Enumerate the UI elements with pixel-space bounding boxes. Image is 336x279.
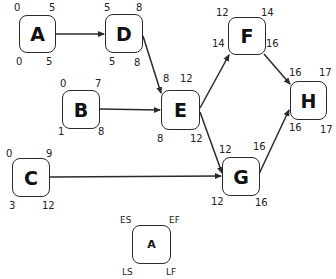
node-c-label: C: [24, 167, 38, 189]
node-d-ef: 8: [136, 3, 142, 13]
legend-es: ES: [120, 215, 131, 225]
legend-ls: LS: [122, 267, 133, 277]
node-g-ls: 12: [211, 197, 224, 207]
node-g-label: G: [233, 166, 249, 188]
legend-node: A: [132, 225, 171, 264]
node-g-lf: 16: [255, 198, 268, 208]
node-g-ef: 16: [253, 142, 266, 152]
edge-f-h: [264, 54, 290, 84]
edge-d-e: [143, 36, 161, 93]
node-e-lf: 12: [190, 134, 203, 144]
node-b-ls: 1: [58, 127, 64, 137]
node-a-lf: 5: [46, 57, 52, 67]
node-h-es: 16: [289, 68, 302, 78]
node-c-lf: 12: [42, 201, 55, 211]
node-c-ef: 9: [46, 149, 52, 159]
node-a-ef: 5: [49, 3, 55, 13]
node-h-lf: 17: [320, 125, 333, 135]
node-b-es: 0: [60, 79, 66, 89]
node-d-label: D: [116, 23, 132, 45]
node-f: F: [228, 17, 266, 55]
node-h-label: H: [301, 90, 317, 112]
node-b-lf: 8: [98, 127, 104, 137]
network-diagram: A 0 5 0 5 D 5 8 5 8 B 0 7 1 8 E 8 12 8 1…: [0, 0, 336, 279]
node-a: A: [19, 15, 56, 53]
node-e: E: [161, 90, 200, 130]
node-d-es: 5: [104, 3, 110, 13]
edge-c-g: [50, 176, 221, 177]
node-e-label: E: [174, 99, 187, 121]
node-a-es: 0: [14, 3, 20, 13]
node-f-ls: 14: [212, 39, 225, 49]
node-h-ef: 17: [319, 68, 332, 78]
node-e-es: 8: [163, 74, 169, 84]
node-d-lf: 8: [134, 58, 140, 68]
legend-lf: LF: [166, 267, 176, 277]
edge-e-f: [200, 55, 229, 108]
node-b: B: [62, 90, 100, 129]
node-b-label: B: [74, 99, 88, 121]
node-g-es: 12: [219, 145, 232, 155]
node-c-ls: 3: [9, 201, 15, 211]
node-b-ef: 7: [95, 79, 101, 89]
node-e-ef: 12: [180, 74, 193, 84]
legend-node-label: A: [147, 238, 156, 251]
node-d-ls: 5: [109, 57, 115, 67]
node-c: C: [12, 158, 50, 197]
node-g: G: [222, 157, 260, 196]
edge-b-e: [100, 109, 160, 110]
node-h: H: [290, 81, 327, 120]
node-c-es: 0: [6, 149, 12, 159]
node-a-ls: 0: [16, 57, 22, 67]
node-e-ls: 8: [157, 134, 163, 144]
node-f-lf: 16: [266, 39, 279, 49]
node-d: D: [105, 14, 143, 53]
node-a-label: A: [30, 23, 45, 45]
node-f-ef: 14: [261, 8, 274, 18]
node-f-es: 12: [216, 8, 229, 18]
node-f-label: F: [241, 25, 254, 47]
edge-e-g: [200, 112, 222, 173]
node-h-ls: 16: [289, 123, 302, 133]
legend-ef: EF: [169, 215, 180, 225]
